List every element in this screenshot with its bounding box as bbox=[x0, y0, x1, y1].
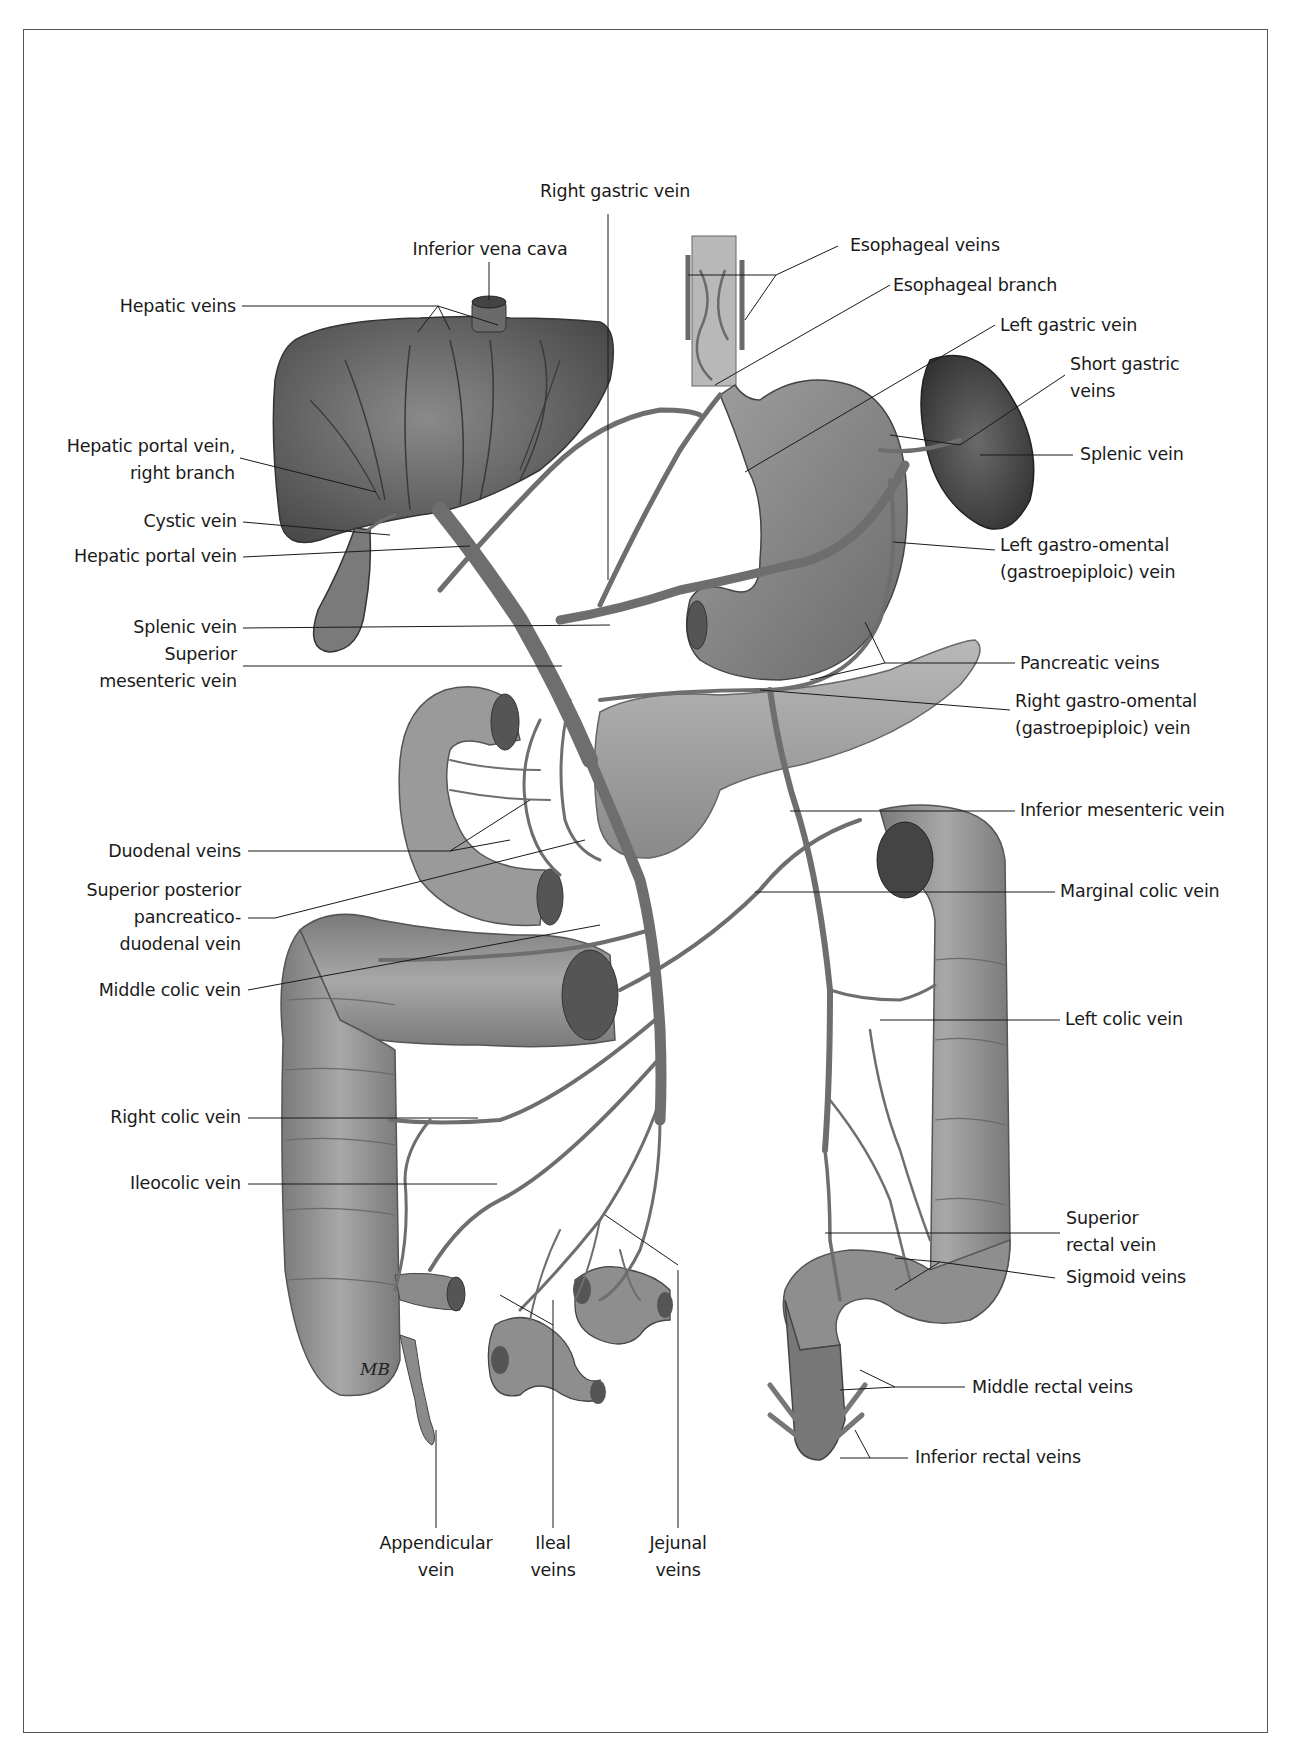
label-esophageal-veins: Esophageal veins bbox=[850, 232, 1000, 259]
label-middle-colic-vein: Middle colic vein bbox=[40, 977, 241, 1004]
label-appendicular-vein: Appendicular vein bbox=[366, 1530, 506, 1584]
label-inferior-mesenteric-vein: Inferior mesenteric vein bbox=[1020, 797, 1225, 824]
label-hepatic-portal-vein-right-branch: Hepatic portal vein, right branch bbox=[30, 433, 235, 487]
label-esophageal-branch: Esophageal branch bbox=[893, 272, 1057, 299]
label-cystic-vein: Cystic vein bbox=[60, 508, 237, 535]
label-splenic-vein-spleen: Splenic vein bbox=[1080, 441, 1184, 468]
label-pancreatic-veins: Pancreatic veins bbox=[1020, 650, 1159, 677]
label-superior-posterior-pancreaticoduodenal-vein: Superior posterior pancreatico- duodenal… bbox=[30, 877, 241, 958]
label-middle-rectal-veins: Middle rectal veins bbox=[972, 1374, 1133, 1401]
label-splenic-vein: Splenic vein bbox=[60, 614, 237, 641]
label-right-gastro-omental-vein: Right gastro-omental (gastroepiploic) ve… bbox=[1015, 688, 1197, 742]
label-left-gastric-vein: Left gastric vein bbox=[1000, 312, 1137, 339]
duodenum bbox=[399, 687, 545, 926]
label-short-gastric-veins: Short gastric veins bbox=[1070, 351, 1179, 405]
label-sigmoid-veins: Sigmoid veins bbox=[1066, 1264, 1186, 1291]
label-marginal-colic-vein: Marginal colic vein bbox=[1060, 878, 1219, 905]
pylorus bbox=[687, 601, 707, 649]
label-jejunal-veins: Jejunal veins bbox=[633, 1530, 723, 1584]
gallbladder bbox=[314, 528, 371, 652]
artist-signature: MB bbox=[359, 1359, 390, 1379]
label-left-colic-vein: Left colic vein bbox=[1065, 1006, 1183, 1033]
label-right-colic-vein: Right colic vein bbox=[40, 1104, 241, 1131]
label-hepatic-veins: Hepatic veins bbox=[60, 293, 236, 320]
appendix bbox=[400, 1335, 435, 1445]
label-hepatic-portal-vein: Hepatic portal vein bbox=[40, 543, 237, 570]
label-ileocolic-vein: Ileocolic vein bbox=[40, 1170, 241, 1197]
label-inferior-vena-cava: Inferior vena cava bbox=[400, 236, 580, 263]
label-inferior-rectal-veins: Inferior rectal veins bbox=[915, 1444, 1081, 1471]
label-ileal-veins: Ileal veins bbox=[513, 1530, 593, 1584]
esophagus bbox=[688, 236, 742, 386]
label-left-gastro-omental-vein: Left gastro-omental (gastroepiploic) vei… bbox=[1000, 532, 1175, 586]
label-duodenal-veins: Duodenal veins bbox=[40, 838, 241, 865]
label-right-gastric-vein: Right gastric vein bbox=[535, 178, 695, 205]
label-superior-mesenteric-vein: Superior mesenteric vein bbox=[40, 641, 237, 695]
sigmoid-colon bbox=[783, 1240, 1010, 1350]
label-superior-rectal-vein: Superior rectal vein bbox=[1066, 1205, 1156, 1259]
